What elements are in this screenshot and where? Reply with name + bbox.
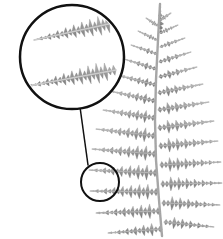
figure-root: IG xyxy=(0,0,223,239)
magnifier-callout xyxy=(20,5,124,109)
fern-figure-svg xyxy=(0,0,223,239)
